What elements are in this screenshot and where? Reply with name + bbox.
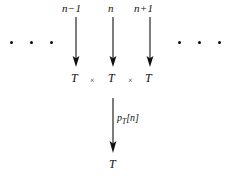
result-term: T bbox=[109, 158, 116, 170]
map-label-p-T-n: pT[n] bbox=[117, 113, 139, 126]
multiplication-operator: × bbox=[90, 77, 95, 85]
ellipsis-dot bbox=[178, 41, 181, 44]
factor-term-n: T bbox=[108, 72, 115, 84]
figure-canvas: n−1 n n+1 T × T × T p bbox=[0, 0, 226, 176]
ellipsis-dot bbox=[10, 41, 13, 44]
ellipsis-dot bbox=[50, 41, 53, 44]
index-label-n: n bbox=[108, 3, 114, 14]
map-label-bracket-close: ] bbox=[135, 112, 139, 123]
index-label-n-minus-1: n−1 bbox=[62, 3, 81, 14]
ellipsis-dot bbox=[30, 41, 33, 44]
arrow-p-T-n-icon bbox=[106, 97, 122, 155]
arrow-n-minus-1-icon bbox=[68, 15, 84, 69]
ellipsis-dot bbox=[218, 41, 221, 44]
ellipsis-dot bbox=[198, 41, 201, 44]
ellipsis-right bbox=[178, 41, 221, 44]
index-label-n-plus-1: n+1 bbox=[134, 3, 153, 14]
factor-term-n-minus-1: T bbox=[71, 72, 78, 84]
factor-term-n-plus-1: T bbox=[145, 72, 152, 84]
arrow-n-plus-1-icon bbox=[142, 15, 158, 69]
multiplication-operator: × bbox=[128, 77, 133, 85]
arrow-n-icon bbox=[105, 15, 121, 69]
ellipsis-left bbox=[10, 41, 53, 44]
